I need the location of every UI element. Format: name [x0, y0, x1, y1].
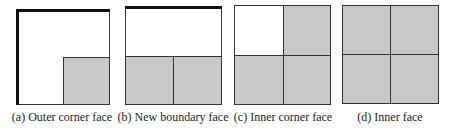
- shaded-cell-top-left: [342, 5, 391, 55]
- caption-b: (b) New boundary face: [112, 110, 234, 125]
- shaded-cell-bottom-right: [63, 57, 110, 105]
- shaded-cell-top-right: [283, 5, 331, 56]
- caption-a: (a) Outer corner face: [2, 110, 122, 125]
- panel-c-inner-corner-face: [234, 5, 331, 105]
- thick-edge-top: [17, 9, 110, 12]
- caption-c: (c) Inner corner face: [222, 110, 344, 125]
- panel-b-new-boundary-face: [125, 7, 222, 105]
- shaded-cell-bottom-right: [283, 55, 331, 105]
- panel-a-outer-corner-face: [17, 10, 110, 105]
- caption-d: (d) Inner face: [335, 110, 445, 125]
- panel-d-inner-face: [342, 5, 439, 104]
- shaded-cell-bottom-left: [125, 56, 174, 105]
- thick-edge-top: [125, 6, 222, 9]
- shaded-cell-bottom-left: [342, 54, 391, 104]
- shaded-cell-top-right: [390, 5, 439, 55]
- shaded-cell-bottom-left: [234, 55, 284, 105]
- thick-edge-left: [16, 9, 19, 105]
- shaded-cell-bottom-right: [390, 54, 439, 104]
- shaded-cell-bottom-right: [173, 56, 222, 105]
